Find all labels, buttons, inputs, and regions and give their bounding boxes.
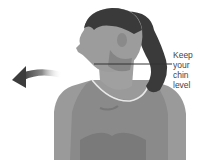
caption-line-2: chin level <box>173 70 208 90</box>
head <box>76 8 142 72</box>
caption-label: Keep your chin level <box>173 50 208 90</box>
arrow-left-icon <box>12 66 62 88</box>
torso <box>54 80 186 160</box>
caption-line-1: Keep your <box>173 50 208 70</box>
exercise-figure: Keep your chin level <box>0 0 208 160</box>
